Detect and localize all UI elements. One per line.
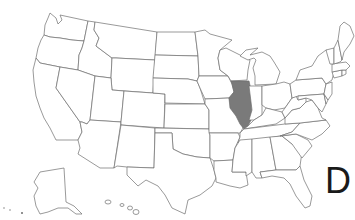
state-arizona bbox=[78, 120, 121, 168]
state-florida bbox=[260, 166, 312, 208]
state-new-mexico bbox=[114, 125, 155, 168]
us-map bbox=[0, 0, 355, 220]
state-colorado bbox=[121, 91, 165, 128]
state-north-dakota bbox=[155, 32, 198, 56]
state-kansas bbox=[164, 104, 209, 129]
state-wyoming bbox=[111, 58, 155, 93]
answer-choice-label: D bbox=[325, 163, 351, 199]
state-alaska bbox=[34, 168, 82, 214]
state-south-dakota bbox=[153, 55, 199, 81]
state-hawaii bbox=[105, 200, 139, 215]
aleutian-islands bbox=[3, 207, 23, 214]
state-rhode-island bbox=[342, 70, 346, 76]
state-indiana bbox=[249, 86, 262, 120]
